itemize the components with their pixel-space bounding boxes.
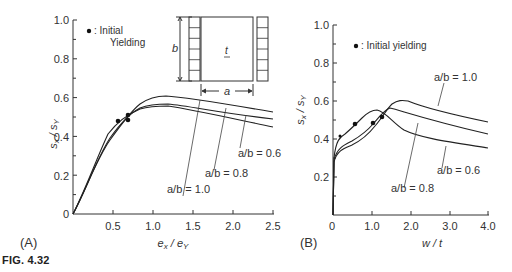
inset-label-t: t — [225, 45, 229, 56]
panel-b: 1.00.8 0.60.4 0.2 01.0 2.03.04.0 sx / sY… — [294, 19, 496, 250]
panel-label-b: (B) — [300, 235, 317, 250]
annotation-ab-0.8-a: a/b = 0.8 — [205, 167, 248, 179]
annotations-a: a/b = 1.0 a/b = 0.8 a/b = 0.6 — [167, 147, 281, 195]
x-tick-labels-b: 01.0 2.03.04.0 — [329, 220, 496, 232]
y-tick-labels-b: 1.00.8 0.60.4 0.2 — [314, 19, 329, 183]
plate-diagram-inset — [176, 17, 268, 96]
svg-text:2.5: 2.5 — [265, 220, 280, 232]
legend-a-line1: : Initial — [94, 25, 123, 36]
y-ticks-a — [73, 20, 77, 195]
svg-text:4.0: 4.0 — [480, 220, 495, 232]
annotation-ab-1.0-b: a/b = 1.0 — [434, 71, 477, 83]
svg-text:3.0: 3.0 — [442, 220, 457, 232]
annotation-ab-0.6-a: a/b = 0.6 — [238, 147, 281, 159]
x-ticks-b — [372, 211, 488, 215]
y-axis-label-b: sx / sY — [294, 95, 308, 125]
svg-text:0.5: 0.5 — [105, 220, 120, 232]
svg-text:0.8: 0.8 — [54, 53, 69, 65]
figure-caption: FIG. 4.32 — [2, 254, 50, 266]
svg-text:0.2: 0.2 — [314, 171, 329, 183]
svg-text:0.6: 0.6 — [54, 92, 69, 104]
svg-text:1.0: 1.0 — [145, 220, 160, 232]
svg-text:1.0: 1.0 — [314, 19, 329, 31]
x-axis-label-b: w / t — [422, 237, 443, 249]
x-axis-label-a: ex / eY — [158, 237, 189, 251]
inset-label-b: b — [172, 42, 178, 54]
panel-a: 1.00.8 0.60.4 0.20 0.51.0 1.52.02.5 sx /… — [20, 14, 281, 251]
annotation-ab-1.0-a: a/b = 1.0 — [167, 183, 210, 195]
y-axis-label-a: sx / sY — [47, 119, 61, 149]
svg-text:2.0: 2.0 — [403, 220, 418, 232]
annotation-ab-0.6-b: a/b = 0.6 — [437, 164, 480, 176]
svg-text:1.5: 1.5 — [185, 220, 200, 232]
panel-label-a: (A) — [20, 235, 37, 250]
x-ticks-a — [113, 210, 273, 214]
svg-text:0: 0 — [329, 220, 335, 232]
svg-text:1.0: 1.0 — [54, 14, 69, 26]
annotation-ab-0.8-b: a/b = 0.8 — [391, 182, 434, 194]
y-tick-labels-a: 1.00.8 0.60.4 0.20 — [54, 14, 69, 220]
svg-text:0.8: 0.8 — [314, 57, 329, 69]
initial-yield-marker-legend-b — [354, 44, 358, 48]
legend-b: : Initial yielding — [361, 40, 427, 51]
legend-a-line2: Yielding — [110, 37, 145, 48]
svg-text:2.0: 2.0 — [225, 220, 240, 232]
x-tick-labels-a: 0.51.0 1.52.02.5 — [105, 220, 280, 232]
initial-yield-marker-legend-a — [87, 29, 91, 33]
figure-canvas: 1.00.8 0.60.4 0.20 0.51.0 1.52.02.5 sx /… — [0, 0, 512, 272]
inset-label-a: a — [224, 85, 230, 97]
curve-a-ab-0.6 — [73, 106, 273, 214]
svg-text:0.6: 0.6 — [314, 95, 329, 107]
svg-text:0.4: 0.4 — [314, 133, 329, 145]
annotations-b: a/b = 1.0 a/b = 0.8 a/b = 0.6 — [391, 71, 480, 194]
svg-text:0: 0 — [63, 208, 69, 220]
svg-text:0.2: 0.2 — [54, 170, 69, 182]
svg-text:1.0: 1.0 — [364, 220, 379, 232]
